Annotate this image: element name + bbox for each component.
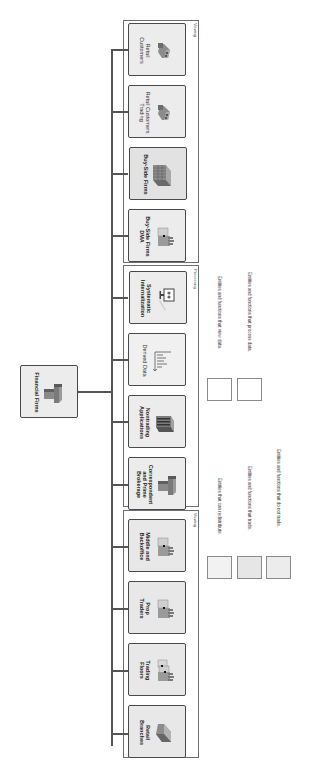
node-label-line: Traders [140, 599, 146, 619]
group-label-processing: Processing [193, 269, 198, 289]
trading-desk-icon [155, 534, 177, 560]
people-group-icon [155, 100, 177, 126]
node-prop-traders: Prop Traders [128, 581, 186, 634]
root-label: Financial Firms [35, 372, 41, 412]
legend-swatch-view [207, 378, 232, 401]
node-label-line: Prop [146, 599, 152, 619]
node-label-line: Branches [140, 720, 146, 745]
legend-label-process: Entities and functions that process data… [247, 272, 252, 352]
branch-connector [111, 733, 128, 735]
branch-connector [111, 608, 128, 610]
branch-connector [111, 49, 128, 51]
legend-swatch-no-trade [266, 556, 291, 579]
node-label-line: Applications [140, 406, 146, 439]
node-label-line: Systematic [147, 280, 153, 317]
node-label-line: Middle and [146, 532, 152, 561]
group-label-trading: Viewing [193, 513, 198, 527]
trading-floor-icon [155, 658, 177, 684]
bar-chart-axes-icon [152, 348, 174, 374]
bank-branch-icon [155, 720, 177, 746]
root-node-financial-firms: Financial Firms [20, 365, 78, 418]
spine-connector [111, 50, 113, 746]
node-label-line: Buy-Side Firms [144, 154, 150, 194]
node-nontrading-applications: Nontrading Applications [128, 395, 186, 448]
legend-label-no-trade: Entities and functions that do not trade… [276, 449, 281, 527]
office-tower-icon [44, 380, 66, 406]
node-buy-side-firms: Buy-Side Firms [129, 147, 187, 200]
group-label-viewing: Viewing [193, 23, 198, 37]
node-retail-branches: Retail Branches [128, 705, 186, 758]
node-middle-and-backoffice: Middle and Backoffice [128, 519, 186, 572]
legend-swatch-process [237, 378, 262, 401]
computer-monitor-icon [156, 286, 178, 312]
node-label-line: Backoffice [140, 532, 146, 561]
people-group-icon [155, 38, 177, 64]
branch-connector [111, 546, 128, 548]
branch-connector [111, 235, 128, 237]
node-label-line: Retail [146, 37, 152, 64]
node-derived-data: Derived Data [128, 333, 186, 386]
node-label-line: Floors [140, 661, 146, 681]
node-label-line: Internalization [141, 280, 147, 317]
node-label-line: Retail Customers [146, 91, 152, 133]
node-correspondent-prime-brokerage: Correspondent and Prime Brokerage [128, 457, 186, 510]
branch-connector [111, 297, 128, 299]
node-label-line: Buy-Side Firms [146, 216, 152, 256]
node-label-line: Brokerage [137, 465, 143, 504]
node-systematic-internalization: Systematic Internalization [129, 271, 187, 324]
node-label-line: Nontrading [146, 406, 152, 439]
branch-connector [111, 670, 128, 672]
branch-connector [111, 359, 128, 361]
node-trading-floors: Trading Floors [128, 643, 186, 696]
branch-connector [111, 421, 128, 423]
legend-swatch-redistribute [207, 556, 232, 579]
node-label-line: Correspondent [149, 465, 155, 504]
office-building-icon [153, 162, 175, 188]
branch-connector [111, 111, 128, 113]
node-label-line: Trading [146, 661, 152, 681]
legend-label-trade: Entities and functions that trade. [247, 466, 252, 530]
node-label-line: Retail [146, 720, 152, 745]
node-label-line: Derived Data [143, 344, 149, 376]
node-retail-customers: Retail Customers [128, 23, 186, 76]
trading-desk-icon [155, 224, 177, 250]
legend-label-redistribute: Entities that can redistribute. [217, 478, 222, 535]
legend-label-view: Entities and functions that view data. [217, 276, 222, 349]
server-rack-icon [155, 410, 177, 436]
trading-desk-icon [155, 596, 177, 622]
legend-swatch-trade [237, 556, 262, 579]
branch-connector [111, 484, 128, 486]
node-buy-side-firms-dma: Buy-Side Firms DMA [128, 209, 186, 262]
branch-connector [111, 173, 128, 175]
office-tower-icon [158, 472, 180, 498]
root-connector [78, 391, 112, 393]
node-label-line: Customers [140, 37, 146, 64]
node-retail-customers-trading: Retail Customers Trading [128, 85, 186, 138]
